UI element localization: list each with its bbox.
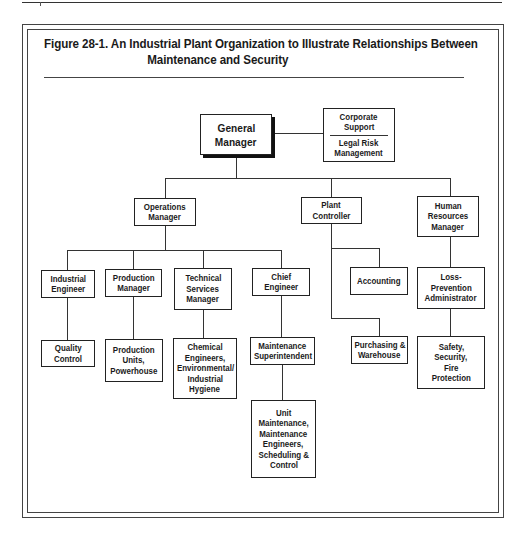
node-safety-security-fire: Safety, Security, Fire Protection	[417, 336, 485, 389]
connector-gm-corporate	[272, 133, 323, 134]
connector-technical-chemical	[203, 310, 204, 338]
connector-level1-bar	[165, 178, 451, 179]
figure-title-line1: Figure 28-1. An Industrial Plant Organiz…	[44, 36, 478, 51]
connector-to-plant-controller	[331, 178, 332, 197]
node-maintenance-superintendent: Maintenance Superintendent	[250, 337, 315, 365]
node-general-manager: General Manager	[200, 114, 272, 155]
connector-to-operations	[165, 178, 166, 198]
connector-to-industrial	[67, 250, 68, 270]
connector-chief-maintenance	[281, 296, 282, 337]
node-hr-manager: Human Resources Manager	[417, 196, 479, 237]
node-industrial-engineer: Industrial Engineer	[41, 270, 95, 298]
node-technical-services-manager: Technical Services Manager	[174, 268, 232, 310]
connector-controller-accounting-h	[331, 248, 379, 249]
node-chemical-engineers: Chemical Engineers, Environmental/ Indus…	[173, 338, 237, 399]
connector-to-purchasing	[379, 318, 380, 336]
connector-gm-down	[236, 155, 237, 178]
connector-production-units	[133, 297, 134, 339]
corporate-divider	[330, 135, 388, 136]
node-production-units: Production Units, Powerhouse	[105, 339, 163, 382]
connector-to-technical	[203, 250, 204, 268]
connector-maintenance-unit	[282, 365, 283, 400]
node-unit-maintenance: Unit Maintenance, Maintenance Engineers,…	[251, 400, 316, 478]
node-corporate-support: Corporate Support Legal Risk Management	[323, 108, 395, 162]
node-chief-engineer: Chief Engineer	[252, 268, 310, 296]
title-rule	[44, 77, 464, 78]
connector-operations-down	[165, 226, 166, 250]
node-loss-prevention-administrator: Loss- Prevention Administrator	[417, 267, 485, 309]
node-plant-controller: Plant Controller	[301, 197, 362, 224]
connector-level2-bar	[67, 250, 282, 251]
connector-loss-safety	[450, 309, 451, 336]
figure-title: Figure 28-1. An Industrial Plant Organiz…	[44, 36, 422, 68]
node-quality-control: Quality Control	[41, 340, 95, 367]
page-top-rule	[22, 2, 502, 3]
connector-hr-loss	[450, 237, 451, 267]
connector-controller-purchasing-h	[331, 318, 379, 319]
node-accounting: Accounting	[350, 267, 408, 295]
node-operations-manager: Operations Manager	[134, 198, 196, 226]
node-production-manager: Production Manager	[105, 269, 162, 297]
connector-to-chief	[281, 250, 282, 268]
connector-to-hr	[450, 178, 451, 196]
page-top-tick	[40, 2, 41, 6]
figure-title-line2: Maintenance and Security	[44, 52, 422, 68]
connector-to-accounting	[379, 248, 380, 267]
connector-industrial-quality	[67, 298, 68, 340]
node-purchasing-warehouse: Purchasing & Warehouse	[351, 336, 408, 364]
connector-to-production	[133, 250, 134, 269]
connector-controller-down	[331, 224, 332, 319]
